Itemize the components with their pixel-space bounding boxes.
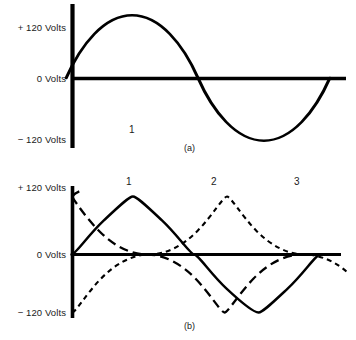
panel-a-ytick-zero: 0 Volts — [4, 73, 66, 84]
panel-a-ytick-plus120: + 120 Volts — [4, 22, 66, 33]
panel-b-three-phase: + 120 Volts 0 Volts − 120 Volts 1 2 3 (b… — [0, 168, 356, 340]
panel-b-ytick-plus120: + 120 Volts — [4, 182, 66, 193]
panel-a-ytick-minus120: − 120 Volts — [4, 134, 66, 145]
panel-b-curve-label-2: 2 — [211, 176, 217, 187]
panel-b-caption: (b) — [184, 321, 195, 331]
panel-b-ytick-zero: 0 Volts — [4, 249, 66, 260]
panel-b-ytick-minus120: − 120 Volts — [4, 307, 66, 318]
waveform-figure: + 120 Volts 0 Volts − 120 Volts 1 (a) + … — [0, 0, 356, 340]
panel-b-curve-label-1: 1 — [126, 176, 132, 187]
panel-a-curve-label-1: 1 — [129, 124, 135, 135]
panel-a-caption: (a) — [184, 143, 195, 153]
panel-b-curve-label-3: 3 — [294, 176, 300, 187]
panel-a-single-phase: + 120 Volts 0 Volts − 120 Volts 1 (a) — [0, 0, 356, 168]
